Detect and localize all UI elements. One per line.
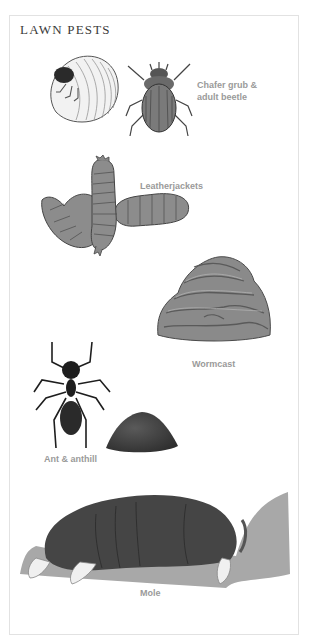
chafer-label-line1: Chafer grub & bbox=[197, 79, 257, 91]
chafer-grub-illustration bbox=[46, 50, 122, 126]
wormcast-illustration bbox=[154, 253, 274, 345]
chafer-label-line2: adult beetle bbox=[197, 91, 257, 103]
ant-anthill-label: Ant & anthill bbox=[44, 453, 97, 465]
mole-label: Mole bbox=[140, 587, 161, 599]
leatherjackets-illustration bbox=[36, 154, 192, 264]
adult-beetle-illustration bbox=[124, 60, 194, 140]
ant-illustration bbox=[32, 340, 114, 452]
anthill-illustration bbox=[104, 410, 180, 456]
leatherjackets-label: Leatherjackets bbox=[140, 180, 203, 192]
chafer-label: Chafer grub & adult beetle bbox=[197, 79, 257, 103]
page-title: LAWN PESTS bbox=[20, 22, 111, 38]
mole-illustration bbox=[16, 484, 290, 588]
wormcast-label: Wormcast bbox=[192, 358, 235, 370]
